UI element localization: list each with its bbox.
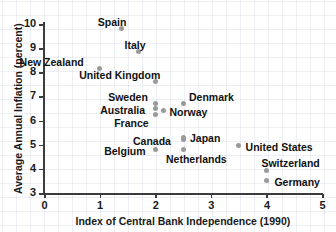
data-point <box>181 147 186 152</box>
data-point-label: United States <box>246 141 313 153</box>
data-point-label: France <box>114 117 148 129</box>
x-axis-tick <box>44 194 46 198</box>
data-point-label: Germany <box>274 176 320 188</box>
x-axis-tick <box>100 194 102 198</box>
x-axis-tick <box>322 194 324 198</box>
data-point-label: Japan <box>190 132 220 144</box>
x-axis-tick <box>155 194 157 198</box>
y-axis-tick-label: 4 <box>30 162 36 174</box>
x-axis-tick-label: 0 <box>42 199 48 211</box>
y-axis-tick <box>39 169 43 171</box>
plot-area: 012345345678910Index of Central Bank Ind… <box>0 0 336 232</box>
y-axis-tick-label: 7 <box>30 89 36 101</box>
y-axis-tick-label: 9 <box>30 41 36 53</box>
y-axis-tick <box>39 48 43 50</box>
data-point-label: Spain <box>98 16 127 28</box>
data-point-label: Denmark <box>189 91 234 103</box>
data-point <box>264 178 269 183</box>
data-point <box>181 137 186 142</box>
data-point-label: United Kingdom <box>79 69 160 81</box>
data-point-label: Switzerland <box>261 157 319 169</box>
data-point-label: Belgium <box>104 145 145 157</box>
y-axis-tick-label: 10 <box>24 17 36 29</box>
y-axis-title: Average Annual Inflation (percent) <box>12 23 24 194</box>
y-axis-tick <box>39 72 43 74</box>
data-point <box>153 112 158 117</box>
x-axis-tick <box>266 194 268 198</box>
x-axis-title: Index of Central Bank Independence (1990… <box>76 215 291 227</box>
y-axis-tick <box>39 96 43 98</box>
x-axis-line <box>43 193 323 195</box>
data-point-label: Norway <box>170 106 208 118</box>
y-axis-line <box>43 22 45 195</box>
x-axis-tick-label: 2 <box>153 199 159 211</box>
y-axis-tick <box>39 145 43 147</box>
y-axis-tick <box>39 24 43 26</box>
data-point-label: Australia <box>100 104 145 116</box>
x-axis-tick <box>211 194 213 198</box>
data-point-label: Italy <box>125 39 146 51</box>
y-axis-tick <box>39 193 43 195</box>
y-axis-tick-label: 5 <box>30 138 36 150</box>
y-axis-tick-label: 3 <box>30 186 36 198</box>
data-point-label: Netherlands <box>166 153 227 165</box>
x-axis-tick-label: 1 <box>97 199 103 211</box>
data-point <box>161 108 166 113</box>
y-axis-tick <box>39 121 43 123</box>
scatter-chart: 012345345678910Index of Central Bank Ind… <box>0 0 336 232</box>
x-axis-tick-label: 5 <box>320 199 326 211</box>
data-point <box>153 106 158 111</box>
y-axis-tick-label: 6 <box>30 114 36 126</box>
x-axis-tick-label: 4 <box>264 199 270 211</box>
data-point-label: New Zealand <box>20 56 84 68</box>
data-point <box>153 147 158 152</box>
data-point-label: Sweden <box>108 91 148 103</box>
x-axis-tick-label: 3 <box>208 199 214 211</box>
data-point <box>236 143 241 148</box>
